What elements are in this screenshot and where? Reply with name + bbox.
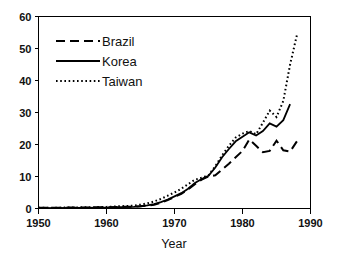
- chart-container: 0102030405060 19501960197019801990 Brazi…: [0, 0, 341, 261]
- y-tick-label: 0: [25, 203, 31, 215]
- x-axis-title: Year: [161, 237, 186, 251]
- y-tick-label: 10: [19, 171, 31, 183]
- series-line-brazil: [39, 139, 297, 207]
- y-tick-label: 20: [19, 139, 31, 151]
- x-tick-label: 1950: [26, 217, 50, 229]
- legend-label-taiwan: Taiwan: [102, 74, 142, 89]
- y-tick-label: 50: [19, 43, 31, 55]
- legend-label-korea: Korea: [102, 54, 137, 69]
- y-axis-ticks: 0102030405060: [19, 11, 38, 215]
- legend-label-brazil: Brazil: [102, 34, 135, 49]
- x-tick-label: 1970: [162, 217, 186, 229]
- x-tick-label: 1980: [230, 217, 254, 229]
- line-chart: 0102030405060 19501960197019801990 Brazi…: [0, 0, 341, 261]
- chart-legend: BrazilKoreaTaiwan: [56, 34, 142, 89]
- x-tick-label: 1990: [298, 217, 322, 229]
- series-line-korea: [39, 104, 291, 208]
- x-axis-ticks: 19501960197019801990: [26, 209, 322, 229]
- x-tick-label: 1960: [94, 217, 118, 229]
- y-tick-label: 40: [19, 75, 31, 87]
- y-tick-label: 60: [19, 11, 31, 23]
- axis-group: [39, 17, 311, 209]
- y-tick-label: 30: [19, 107, 31, 119]
